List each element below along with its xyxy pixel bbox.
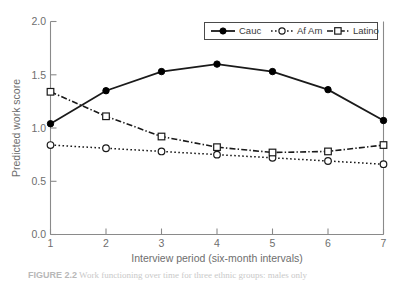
chart-axes xyxy=(51,22,384,235)
x-axis-title: Interview period (six-month intervals) xyxy=(131,252,303,264)
x-tick-label: 1 xyxy=(48,237,54,249)
y-axis-title: Predicted work score xyxy=(10,79,22,177)
legend-marker-open-circle xyxy=(279,28,285,34)
legend-marker-open-square xyxy=(335,28,341,34)
y-tick-label: 0.0 xyxy=(31,228,46,240)
data-point-filled-circle xyxy=(47,121,53,127)
figure-caption-label: FIGURE 2.2 xyxy=(28,270,77,280)
data-point-open-square xyxy=(269,149,276,156)
series-latino xyxy=(47,88,387,155)
data-series-layer xyxy=(47,61,387,168)
chart-legend: Cauc Af Am Latino xyxy=(205,23,379,40)
data-point-open-square xyxy=(158,133,165,140)
data-point-open-circle xyxy=(47,142,54,149)
data-point-filled-circle xyxy=(269,68,275,74)
data-point-open-circle xyxy=(158,148,165,155)
data-point-filled-circle xyxy=(158,68,164,74)
legend-marker-filled-circle xyxy=(220,28,226,34)
data-point-filled-circle xyxy=(214,61,220,67)
x-axis-ticks: 1 2 3 4 5 6 7 xyxy=(48,229,387,250)
x-tick-label: 3 xyxy=(159,237,165,249)
y-tick-label: 1.0 xyxy=(31,122,46,134)
data-point-open-square xyxy=(103,113,110,120)
legend-label-af-am: Af Am xyxy=(297,25,322,36)
x-tick-label: 5 xyxy=(270,237,276,249)
figure-caption-text: Work functioning over time for three eth… xyxy=(79,270,307,280)
data-point-filled-circle xyxy=(380,117,386,123)
data-point-filled-circle xyxy=(103,88,109,94)
y-tick-label: 1.5 xyxy=(31,69,46,81)
data-point-filled-circle xyxy=(325,86,331,92)
legend-label-cauc: Cauc xyxy=(239,25,261,36)
figure-caption: FIGURE 2.2 Work functioning over time fo… xyxy=(28,270,400,281)
line-chart: 0.0 0.5 1.0 1.5 2.0 1 2 3 4 5 6 7 Interv… xyxy=(0,0,405,282)
x-tick-label: 4 xyxy=(214,237,220,249)
data-point-open-circle xyxy=(325,158,332,165)
legend-label-latino: Latino xyxy=(353,25,379,36)
data-point-open-circle xyxy=(103,145,110,152)
x-tick-label: 6 xyxy=(325,237,331,249)
y-axis-ticks: 0.0 0.5 1.0 1.5 2.0 xyxy=(31,15,56,240)
data-point-open-square xyxy=(47,88,54,95)
figure-container: 0.0 0.5 1.0 1.5 2.0 1 2 3 4 5 6 7 Interv… xyxy=(0,0,405,282)
y-tick-label: 0.5 xyxy=(31,175,46,187)
x-tick-label: 7 xyxy=(381,237,387,249)
x-tick-label: 2 xyxy=(103,237,109,249)
data-point-open-circle xyxy=(214,151,221,158)
data-point-open-square xyxy=(325,148,332,155)
data-point-open-square xyxy=(380,142,387,149)
series-line-cauc xyxy=(51,64,384,124)
series-cauc xyxy=(47,61,386,127)
data-point-open-circle xyxy=(380,161,387,168)
data-point-open-square xyxy=(214,144,221,151)
y-tick-label: 2.0 xyxy=(31,15,46,27)
